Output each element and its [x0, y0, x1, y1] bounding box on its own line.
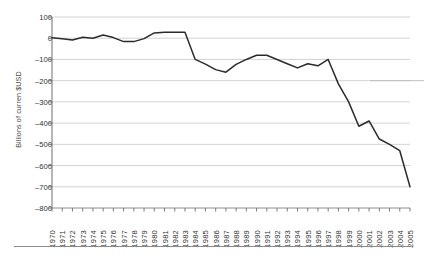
data-series-line	[52, 32, 410, 187]
chart-container: Billions of curren $USD 1000–100–200–300…	[0, 0, 425, 258]
footer-divider	[14, 246, 411, 247]
chart-plot-area	[0, 0, 425, 258]
